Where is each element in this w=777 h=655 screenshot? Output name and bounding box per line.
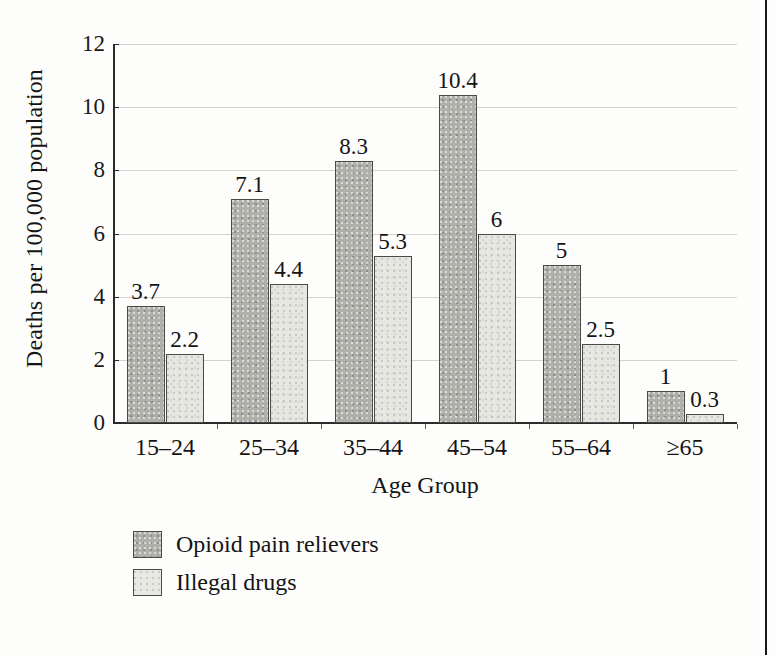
bar-value-label: 5.3: [378, 230, 407, 254]
figure-container: Deaths per 100,000 population 024681012 …: [0, 0, 777, 655]
gridline: [113, 44, 737, 45]
x-axis-tick-mark: [321, 424, 322, 429]
gridline: [113, 234, 737, 235]
bar[interactable]: 5.3: [374, 256, 412, 423]
x-axis-tick-label: 15–24: [113, 432, 217, 462]
y-axis-tick-label: 10: [65, 95, 105, 118]
x-axis-tick-label: 35–44: [321, 432, 425, 462]
x-axis-title: Age Group: [113, 472, 737, 499]
legend-item[interactable]: Opioid pain relievers: [133, 525, 379, 563]
y-axis-tick-mark: [113, 234, 119, 235]
y-axis-tick-labels: 024681012: [57, 44, 105, 423]
y-axis-tick-label: 12: [65, 32, 105, 55]
legend-item-label: Opioid pain relievers: [176, 531, 379, 557]
gridline: [113, 170, 737, 171]
x-axis-tick-mark: [529, 424, 530, 429]
x-axis-tick-mark: [425, 424, 426, 429]
y-axis-title: Deaths per 100,000 population: [21, 9, 48, 429]
chart-legend: Opioid pain relieversIllegal drugs: [133, 525, 379, 601]
x-axis-tick-label: 25–34: [217, 432, 321, 462]
y-axis-tick-mark: [113, 107, 119, 108]
bar[interactable]: 4.4: [270, 284, 308, 423]
y-axis-tick-label: 4: [65, 285, 105, 308]
x-axis-tick-label: 45–54: [425, 432, 529, 462]
y-axis-tick-mark: [113, 44, 119, 45]
y-axis-tick-mark: [113, 297, 119, 298]
bar[interactable]: 8.3: [335, 161, 373, 423]
y-axis-tick-label: 2: [65, 348, 105, 371]
bar[interactable]: 10.4: [439, 95, 477, 423]
plot-area: 3.72.27.14.48.35.310.4652.510.3: [113, 44, 737, 423]
bar[interactable]: 2.2: [166, 354, 204, 423]
bar[interactable]: 5: [543, 265, 581, 423]
bar-value-label: 6: [491, 208, 503, 232]
y-axis-tick-mark: [113, 360, 119, 361]
x-axis-tick-mark: [217, 424, 218, 429]
legend-swatch-icon: [133, 531, 162, 558]
bar[interactable]: 7.1: [231, 199, 269, 423]
bar[interactable]: 1: [647, 391, 685, 423]
bar[interactable]: 2.5: [582, 344, 620, 423]
bar-value-label: 10.4: [437, 69, 477, 93]
gridline: [113, 107, 737, 108]
bar-value-label: 3.7: [131, 280, 160, 304]
bar[interactable]: 6: [478, 234, 516, 424]
bar-value-label: 7.1: [235, 173, 264, 197]
bar-value-label: 8.3: [339, 135, 368, 159]
y-axis-tick-mark: [113, 423, 119, 424]
legend-item-label: Illegal drugs: [176, 569, 297, 595]
page-margin-rule: [765, 0, 767, 655]
y-axis-tick-label: 0: [65, 411, 105, 434]
bar-value-label: 4.4: [274, 258, 303, 282]
y-axis-tick-label: 8: [65, 158, 105, 181]
y-axis-tick-label: 6: [65, 222, 105, 245]
x-axis-tick-label: ≥65: [633, 432, 737, 462]
bar[interactable]: 3.7: [127, 306, 165, 423]
y-axis-tick-mark: [113, 170, 119, 171]
x-axis-tick-label: 55–64: [529, 432, 633, 462]
gridline: [113, 297, 737, 298]
bar-value-label: 2.5: [586, 318, 615, 342]
legend-item[interactable]: Illegal drugs: [133, 563, 379, 601]
x-axis-tick-mark: [633, 424, 634, 429]
bar-value-label: 1: [660, 365, 672, 389]
bar[interactable]: 0.3: [686, 414, 724, 423]
bar-value-label: 5: [556, 239, 568, 263]
x-axis-tick-labels: 15–2425–3435–4445–5455–64≥65: [113, 432, 737, 466]
bar-value-label: 0.3: [690, 388, 719, 412]
x-axis-tick-mark: [737, 424, 738, 429]
gridline: [113, 360, 737, 361]
legend-swatch-icon: [133, 569, 162, 596]
bar-value-label: 2.2: [170, 328, 199, 352]
